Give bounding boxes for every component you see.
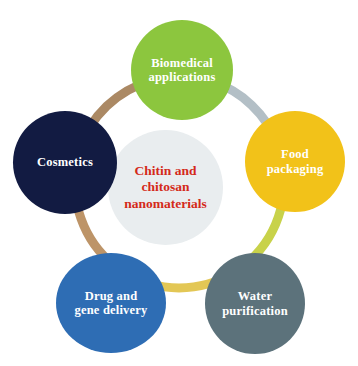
diagram-canvas: Chitin and chitosan nanomaterials Biomed… <box>0 0 358 366</box>
node-biomedical-applications[interactable]: Biomedical applications <box>131 20 233 120</box>
node-drug-and-gene-delivery-label: Drug and gene delivery <box>70 289 151 318</box>
node-drug-and-gene-delivery[interactable]: Drug and gene delivery <box>56 253 166 353</box>
node-cosmetics[interactable]: Cosmetics <box>13 111 117 214</box>
center-hub-label: Chitin and chitosan nanomaterials <box>124 163 207 212</box>
node-biomedical-applications-label: Biomedical applications <box>145 56 220 85</box>
node-water-purification[interactable]: Water purification <box>205 253 305 354</box>
node-cosmetics-label: Cosmetics <box>33 155 97 169</box>
node-food-packaging-label: Food packaging <box>263 147 328 176</box>
node-food-packaging[interactable]: Food packaging <box>245 111 345 212</box>
center-hub: Chitin and chitosan nanomaterials <box>108 130 223 245</box>
node-water-purification-label: Water purification <box>218 289 292 318</box>
